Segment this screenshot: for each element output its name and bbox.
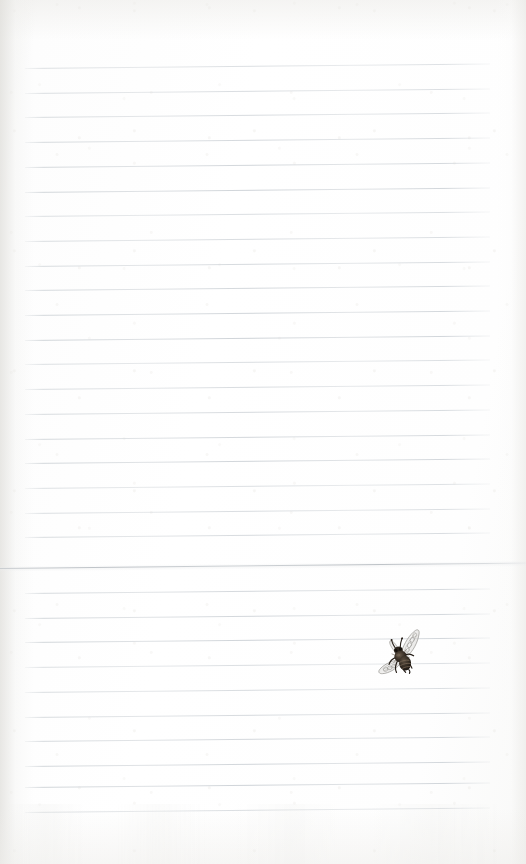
ruled-line	[25, 385, 490, 390]
ruled-line	[25, 311, 490, 316]
ruled-line	[25, 162, 490, 167]
ruled-line	[25, 508, 490, 513]
ruled-line	[25, 533, 490, 538]
ruled-line	[25, 286, 490, 291]
ruled-line	[25, 212, 490, 217]
ruled-line	[25, 335, 490, 340]
ruled-line	[25, 589, 490, 594]
ruled-line	[25, 737, 490, 742]
ruled-line	[25, 64, 490, 69]
ruled-line	[25, 88, 490, 93]
ruled-line	[25, 360, 490, 365]
ruled-line	[25, 483, 490, 488]
ruled-line	[25, 687, 490, 692]
ruled-line	[25, 761, 490, 766]
ruled-lines-layer	[0, 0, 526, 864]
ruled-line	[25, 434, 490, 439]
notebook-page	[0, 0, 526, 864]
ruled-line	[25, 187, 490, 192]
ruled-line	[25, 409, 490, 414]
ruled-line	[25, 638, 490, 643]
ruled-line	[25, 712, 490, 717]
ruled-line	[25, 663, 490, 668]
ruled-line	[25, 236, 490, 241]
ruled-line	[25, 613, 490, 618]
ruled-line	[25, 782, 490, 787]
ruled-line	[25, 459, 490, 464]
ruled-line	[25, 138, 490, 143]
ruled-line	[25, 808, 490, 813]
ruled-line	[25, 113, 490, 118]
ruled-line	[25, 261, 490, 266]
